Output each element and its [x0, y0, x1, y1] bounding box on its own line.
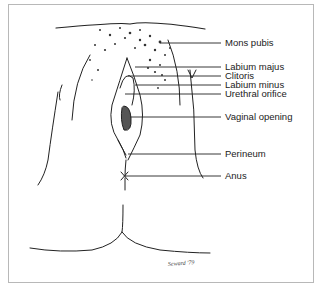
label-urethral-orifice: Urethral orifice [225, 89, 287, 99]
label-mons-pubis: Mons pubis [225, 38, 274, 48]
label-anus: Anus [225, 171, 247, 181]
label-perineum: Perineum [225, 149, 266, 159]
label-vaginal-opening: Vaginal opening [225, 112, 292, 122]
artist-signature: Seward '79 [168, 259, 195, 267]
